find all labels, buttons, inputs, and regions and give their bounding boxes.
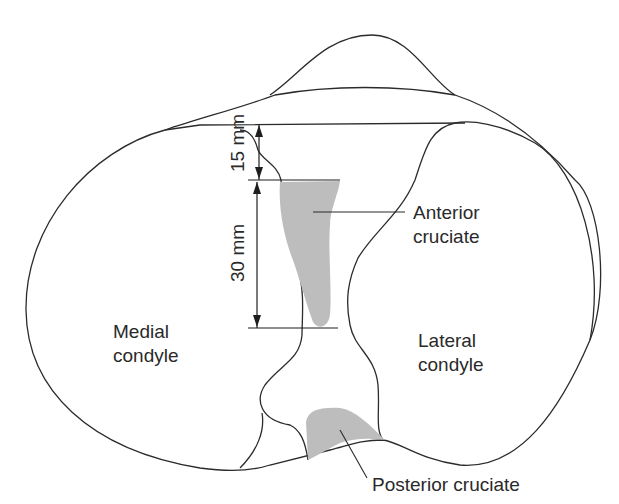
medial-condyle-label-line1: Medial [113,321,169,342]
posterior-cruciate-ligament [306,408,385,460]
anterior-border-line [165,123,465,130]
posterior-cruciate-label: Posterior cruciate [372,474,520,495]
tibial-tuberosity-outline [270,35,455,95]
dimension-label-30mm: 30 mm [227,224,248,282]
dimension-label-15mm: 15 mm [227,114,248,172]
tibial-plateau-diagram: 15 mm 30 mm Medial condyle Lateral condy… [0,0,619,504]
lateral-condyle-label-line2: condyle [418,354,484,375]
dimension-arrow-30mm [253,182,261,328]
medial-posterior-curve [240,413,263,468]
lateral-condyle-label-line1: Lateral [418,330,476,351]
anterior-cruciate-ligament [280,181,340,327]
anterior-cruciate-label-line1: Anterior [413,202,480,223]
medial-condyle-label-line2: condyle [113,345,179,366]
dimension-arrow-15mm [255,125,263,180]
anterior-cruciate-label-line2: cruciate [413,226,480,247]
lateral-condyle-inner-outline [348,122,595,440]
